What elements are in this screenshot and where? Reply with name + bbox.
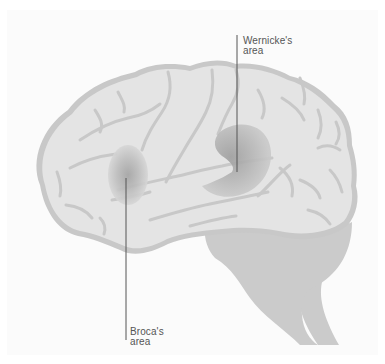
wernicke-area-label: Wernicke's area [243,36,292,56]
broca-area-label: Broca's area [130,327,164,347]
cerebellum-shape [205,222,352,345]
broca-label-line2: area [130,337,164,347]
broca-area-highlight [108,145,148,205]
brain-diagram [0,0,385,364]
wernicke-label-line2: area [243,46,292,56]
